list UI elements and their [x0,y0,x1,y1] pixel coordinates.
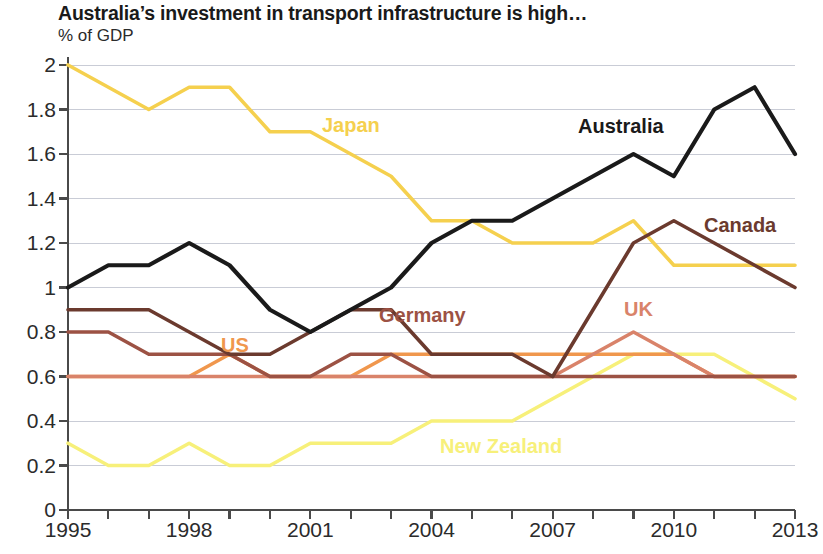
series-label-germany: Germany [379,304,466,327]
y-tick-label: 0.2 [6,454,56,478]
series-line-new-zealand [68,354,795,465]
y-tick-label: 2 [6,53,56,77]
series-label-australia: Australia [578,115,664,138]
series-label-japan: Japan [322,114,380,137]
y-tick-label: 0.6 [6,365,56,389]
y-tick-label: 1.6 [6,142,56,166]
y-tick-label: 1.2 [6,231,56,255]
y-tick-label: 1.4 [6,187,56,211]
x-tick-label: 2010 [634,518,714,542]
x-tick-label: 2001 [270,518,350,542]
y-tick-label: 0.4 [6,409,56,433]
x-tick-label: 2007 [513,518,593,542]
y-tick-label: 1 [6,276,56,300]
series-line-japan [68,65,795,265]
series-label-uk: UK [624,298,653,321]
series-line-us [68,354,795,376]
y-tick-label: 1.8 [6,98,56,122]
series-line-australia [68,87,795,332]
x-tick-label: 2004 [392,518,472,542]
series-label-us: US [221,334,249,357]
x-tick-label: 1995 [28,518,108,542]
x-tick-label: 2013 [755,518,823,542]
y-tick-label: 0.8 [6,320,56,344]
series-label-canada: Canada [704,214,776,237]
x-tick-label: 1998 [149,518,229,542]
series-label-new-zealand: New Zealand [440,435,562,458]
